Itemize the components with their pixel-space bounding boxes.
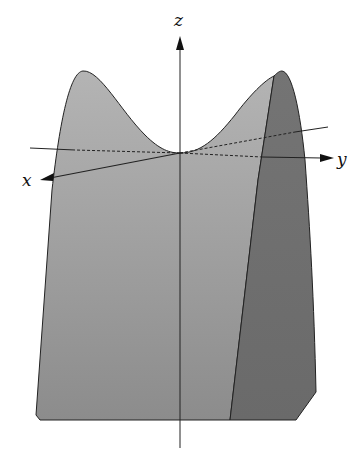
x-axis-arrow-icon bbox=[40, 173, 54, 181]
z-axis-arrow-icon bbox=[176, 36, 184, 50]
y-axis-arrow-icon bbox=[320, 154, 334, 162]
saddle-diagram: z y x bbox=[0, 0, 364, 455]
x-axis-label: x bbox=[22, 170, 32, 190]
z-axis-label: z bbox=[173, 10, 184, 30]
y-axis-label: y bbox=[336, 149, 347, 169]
